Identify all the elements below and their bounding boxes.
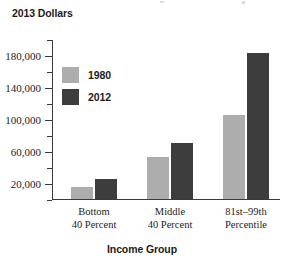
bar-1980-2 bbox=[147, 157, 169, 199]
x-axis-category-label: 81st–99thPercentile bbox=[196, 205, 284, 231]
bar-2012-3 bbox=[247, 53, 269, 199]
bar-2012-1 bbox=[95, 179, 117, 198]
y-axis-major-tick: 20,000 bbox=[45, 184, 52, 185]
y-axis-line bbox=[52, 40, 53, 200]
y-axis-minor-tick bbox=[47, 72, 52, 73]
bar-1980-1 bbox=[71, 187, 93, 199]
y-axis-tick-label: 60,000 bbox=[11, 146, 41, 158]
y-axis-minor-tick bbox=[47, 136, 52, 137]
y-axis-minor-tick bbox=[47, 40, 52, 41]
y-axis-tick-label: 20,000 bbox=[11, 178, 41, 190]
y-axis-tick-label: 100,000 bbox=[5, 114, 41, 126]
legend-item-2012: 2012 bbox=[62, 88, 111, 106]
legend-label-2012: 2012 bbox=[88, 91, 111, 103]
bar-chart: 2013 Dollars 20,00060,000100,000140,0001… bbox=[0, 0, 284, 268]
legend: 1980 2012 bbox=[62, 66, 111, 110]
legend-swatch-1980 bbox=[62, 67, 79, 83]
y-axis-major-tick: 180,000 bbox=[45, 56, 52, 57]
y-axis-minor-tick bbox=[47, 168, 52, 169]
y-axis-unit-title: 2013 Dollars bbox=[12, 7, 73, 19]
y-axis-tick-label: 180,000 bbox=[5, 50, 41, 62]
y-axis-tick-label: 140,000 bbox=[5, 82, 41, 94]
x-axis-title: Income Group bbox=[0, 243, 284, 255]
y-axis-major-tick: 60,000 bbox=[45, 152, 52, 153]
legend-swatch-2012 bbox=[62, 89, 79, 105]
x-axis-category-label-line: Percentile bbox=[196, 218, 284, 231]
bar-2012-2 bbox=[171, 143, 193, 199]
y-axis-minor-tick bbox=[47, 104, 52, 105]
x-axis-category-label-line: 81st–99th bbox=[196, 205, 284, 218]
crop-artifact bbox=[242, 1, 245, 4]
legend-label-1980: 1980 bbox=[88, 69, 111, 81]
y-axis-minor-tick bbox=[47, 200, 52, 201]
legend-item-1980: 1980 bbox=[62, 66, 111, 84]
bar-1980-3 bbox=[223, 115, 245, 199]
crop-artifact bbox=[160, 1, 164, 3]
x-axis-line bbox=[52, 199, 280, 200]
plot-area: 20,00060,000100,000140,000180,000 bbox=[52, 40, 280, 200]
y-axis-major-tick: 100,000 bbox=[45, 120, 52, 121]
y-axis-major-tick: 140,000 bbox=[45, 88, 52, 89]
